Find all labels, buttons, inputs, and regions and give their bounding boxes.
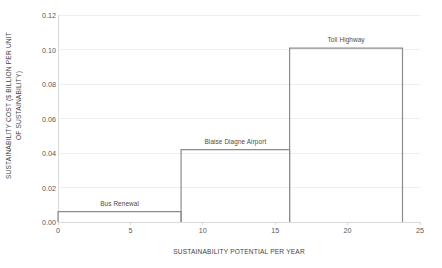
chart-container: SUSTAINABILITY COST ($ BILLION PER UNIT … (0, 0, 442, 268)
step-bar-bus-renewal (58, 212, 181, 222)
data-label-bus-renewal: Bus Renewal (100, 200, 139, 207)
plot-area (0, 0, 442, 268)
gridlines (58, 15, 420, 188)
step-bar-toll-highway (290, 48, 403, 222)
step-bar-blaise-diagne-airport (181, 150, 290, 222)
data-label-blaise-diagne-airport: Blaise Diagne Airport (205, 138, 267, 145)
step-curve (58, 48, 403, 222)
data-label-toll-highway: Toll Highway (328, 36, 365, 43)
